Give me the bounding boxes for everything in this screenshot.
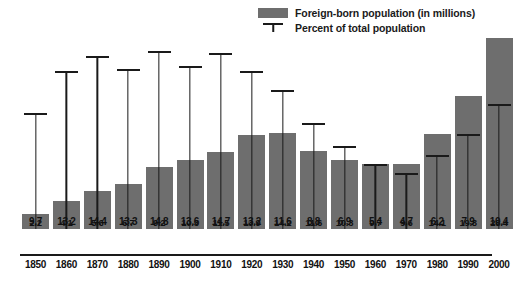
x-axis-year-label: 1850 bbox=[19, 259, 52, 270]
x-axis-year-label: 1860 bbox=[50, 259, 83, 270]
bar-group: 10.313.6 bbox=[177, 46, 204, 229]
x-axis-year-label: 1880 bbox=[112, 259, 145, 270]
percent-marker: 14.4 bbox=[84, 56, 111, 229]
percent-marker: 6.2 bbox=[424, 155, 451, 229]
percent-stem-line bbox=[251, 71, 252, 229]
x-axis-year-label: 2000 bbox=[483, 259, 516, 270]
x-axis-year-label: 1960 bbox=[359, 259, 392, 270]
bar-group: 5.614.4 bbox=[84, 36, 111, 229]
bar-group: 10.36.9 bbox=[331, 126, 358, 229]
bar-group: 28.410.4 bbox=[486, 18, 513, 229]
percent-marker: 13.3 bbox=[115, 69, 142, 229]
percent-value-label: 13.3 bbox=[111, 216, 146, 227]
percent-value-label: 14.4 bbox=[80, 216, 115, 227]
percent-value-label: 10.4 bbox=[482, 216, 517, 227]
percent-value-label: 4.7 bbox=[389, 216, 424, 227]
x-axis-year-label: 1910 bbox=[204, 259, 237, 270]
x-axis-year-label: 1990 bbox=[452, 259, 485, 270]
percent-stem-line bbox=[220, 53, 221, 229]
bar-group: 6.713.3 bbox=[115, 49, 142, 229]
percent-value-label: 13.2 bbox=[234, 216, 269, 227]
bar-group: 13.913.2 bbox=[238, 51, 265, 229]
x-axis-year-label: 1900 bbox=[174, 259, 207, 270]
percent-stem-line bbox=[498, 104, 499, 229]
percent-value-label: 5.4 bbox=[358, 216, 393, 227]
percent-marker: 13.2 bbox=[238, 71, 265, 229]
x-axis-year-label: 1940 bbox=[297, 259, 330, 270]
percent-stem-line bbox=[97, 56, 98, 229]
x-axis-year-label: 1890 bbox=[143, 259, 176, 270]
percent-value-label: 8.8 bbox=[296, 216, 331, 227]
bar-group: 11.68.8 bbox=[300, 103, 327, 229]
x-axis-line bbox=[20, 254, 492, 256]
percent-marker: 10.4 bbox=[486, 104, 513, 229]
bar-group: 9.64.7 bbox=[393, 144, 420, 229]
percent-value-label: 6.2 bbox=[420, 216, 455, 227]
percent-stem-line bbox=[158, 51, 159, 229]
percent-value-label: 13.2 bbox=[49, 216, 84, 227]
percent-value-label: 7.9 bbox=[451, 216, 486, 227]
x-axis-year-label: 1930 bbox=[266, 259, 299, 270]
percent-marker: 8.8 bbox=[300, 123, 327, 229]
percent-stem-line bbox=[66, 71, 67, 229]
bar-group: 2.29.7 bbox=[22, 93, 49, 229]
plot-area: 2.29.718504.113.218605.614.418706.713.31… bbox=[0, 0, 503, 256]
percent-value-label: 9.7 bbox=[18, 216, 53, 227]
x-axis-year-label: 1870 bbox=[81, 259, 114, 270]
percent-marker: 14.8 bbox=[146, 51, 173, 229]
bar-group: 19.87.9 bbox=[455, 76, 482, 229]
bar-group: 9.75.4 bbox=[362, 144, 389, 229]
x-axis-year-label: 1920 bbox=[235, 259, 268, 270]
bar-group: 14.16.2 bbox=[424, 114, 451, 229]
bar-group: 4.113.2 bbox=[53, 51, 80, 229]
bar-group: 11.514.7 bbox=[207, 33, 234, 229]
percent-value-label: 14.8 bbox=[142, 216, 177, 227]
percent-stem-line bbox=[467, 134, 468, 229]
percent-marker: 6.9 bbox=[331, 146, 358, 229]
percent-marker: 7.9 bbox=[455, 134, 482, 229]
x-axis-year-label: 1950 bbox=[328, 259, 361, 270]
percent-marker: 14.7 bbox=[207, 53, 234, 229]
percent-marker: 13.6 bbox=[177, 66, 204, 229]
x-axis-year-label: 1980 bbox=[421, 259, 454, 270]
percent-stem-line bbox=[128, 69, 129, 229]
percent-stem-line bbox=[189, 66, 190, 229]
percent-value-label: 11.6 bbox=[265, 216, 300, 227]
percent-stem-line bbox=[282, 90, 283, 229]
x-axis-year-label: 1970 bbox=[390, 259, 423, 270]
percent-marker: 13.2 bbox=[53, 71, 80, 229]
percent-value-label: 13.6 bbox=[173, 216, 208, 227]
bar-group: 9.214.8 bbox=[146, 31, 173, 229]
percent-value-label: 14.7 bbox=[203, 216, 238, 227]
bar-group: 14.211.6 bbox=[269, 70, 296, 229]
percent-marker: 5.4 bbox=[362, 164, 389, 229]
percent-marker: 11.6 bbox=[269, 90, 296, 229]
percent-stem-line bbox=[35, 113, 36, 229]
percent-marker: 4.7 bbox=[393, 173, 420, 229]
percent-stem-line bbox=[313, 123, 314, 229]
percent-marker: 9.7 bbox=[22, 113, 49, 229]
percent-value-label: 6.9 bbox=[327, 216, 362, 227]
